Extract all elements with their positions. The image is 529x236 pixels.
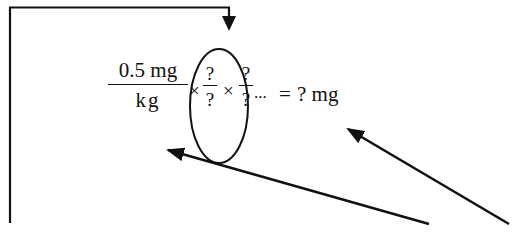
start-denominator: kg (136, 85, 161, 111)
start-fraction: 0.5 mg kg (108, 60, 188, 111)
unknown-denominator-1: ? (206, 86, 214, 109)
unknown-numerator-2: ? (242, 64, 250, 85)
arrow-to-kg (168, 150, 429, 224)
continuation-dots: ... (254, 84, 267, 101)
diagram-lines (0, 0, 529, 236)
feedback-arrow (9, 7, 236, 223)
multiply-sign-1: × (189, 81, 200, 100)
equals-sign: = (279, 84, 291, 105)
start-numerator: 0.5 mg (119, 60, 177, 84)
pointer-arrows (168, 129, 509, 224)
unknown-fraction-2: ? ? (239, 64, 253, 109)
unknown-denominator-2: ? (242, 86, 250, 109)
unknown-fraction-1: ? ? (203, 64, 217, 109)
result-value: ? mg (297, 84, 338, 105)
down-arrow-head-icon (222, 16, 236, 31)
unknown-numerator-1: ? (206, 64, 214, 85)
arrow-to-result (348, 129, 509, 224)
multiply-sign-2: × (223, 81, 234, 100)
